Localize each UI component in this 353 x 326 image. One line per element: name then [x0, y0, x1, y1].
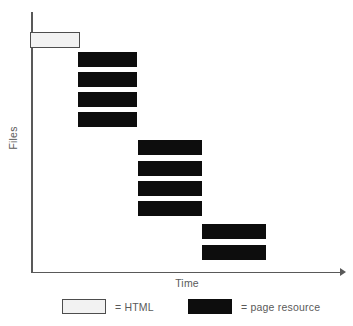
y-axis-title: Files — [7, 115, 19, 161]
plot-area: Files Time — [0, 0, 353, 280]
x-axis-arrow-icon — [340, 268, 346, 276]
x-axis-line — [31, 272, 343, 274]
bar-resource-3 — [78, 92, 137, 107]
legend-label-html: = HTML — [115, 301, 154, 313]
x-axis-title: Time — [31, 277, 343, 289]
legend-item-page-resource: = page resource — [188, 299, 320, 314]
bar-resource-6 — [138, 161, 202, 176]
bar-resource-2 — [78, 72, 137, 87]
bar-resource-8 — [138, 201, 202, 216]
bar-html-document — [30, 32, 80, 48]
legend-swatch-page-resource — [188, 299, 232, 314]
legend-label-page-resource: = page resource — [241, 301, 320, 313]
bar-resource-4 — [78, 112, 137, 127]
bar-resource-5 — [138, 140, 202, 155]
waterfall-chart: Files Time = HTML = page resource — [0, 0, 353, 326]
bar-resource-9 — [202, 224, 266, 239]
bar-resource-10 — [202, 245, 266, 260]
bar-resource-7 — [138, 181, 202, 196]
legend-swatch-html — [62, 299, 106, 314]
bar-resource-1 — [78, 52, 137, 67]
y-axis-line — [31, 12, 33, 273]
legend-item-html: = HTML — [62, 299, 154, 314]
chart-legend: = HTML = page resource — [0, 297, 353, 326]
